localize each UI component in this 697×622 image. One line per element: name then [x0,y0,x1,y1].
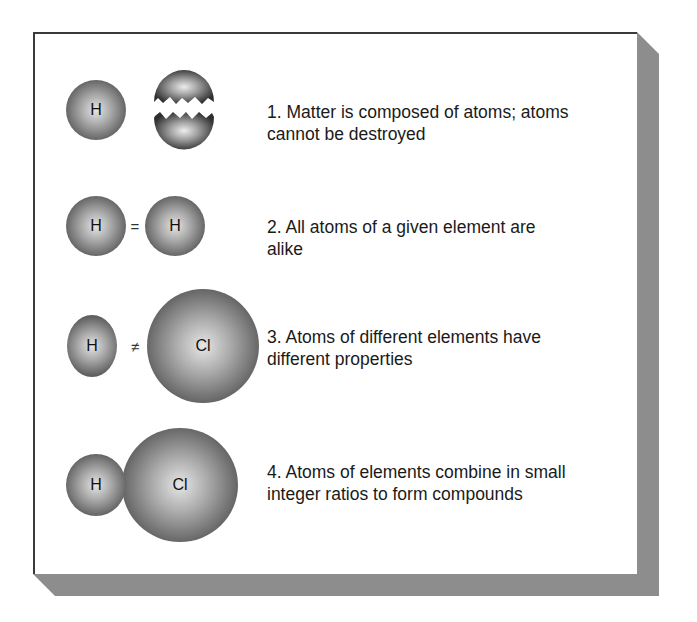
principle-text: 4. Atoms of elements combine in small in… [267,461,637,505]
principle-text: 1. Matter is composed of atoms; atoms ca… [267,101,637,145]
chlorine-atom-icon: Cl [147,289,259,403]
hydrogen-atom-icon: H [67,315,117,377]
equals-symbol: = [131,218,140,235]
not-equal-symbol: ≠ [131,338,139,355]
hydrogen-atom-icon: H [66,196,126,256]
principle-text: 2. All atoms of a given element are alik… [267,216,637,260]
atom-symbol: H [86,337,98,355]
panel-shadow-right [637,32,659,596]
chlorine-atom-icon: Cl [122,428,238,542]
atom-symbol: Cl [172,476,187,494]
atom-symbol: H [169,217,181,235]
atom-symbol: H [90,217,102,235]
hydrogen-atom-icon: H [66,454,126,516]
hydrogen-atom-icon: H [145,196,205,256]
atom-symbol: H [90,476,102,494]
atom-symbol: Cl [195,337,210,355]
broken-atom-icon [152,70,216,150]
hydrogen-atom-icon: H [66,80,126,140]
atom-symbol: H [90,101,102,119]
principle-text: 3. Atoms of different elements have diff… [267,326,637,370]
panel-shadow-bottom [33,574,659,596]
